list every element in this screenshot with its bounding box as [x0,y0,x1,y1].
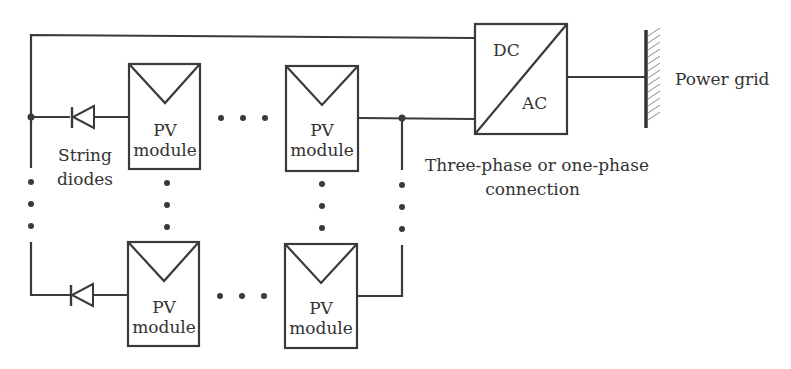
diode-label-line2: diodes [50,167,120,191]
string-diode-icon-top [72,106,94,128]
module-line2: module [129,140,201,160]
string-diode-icon-bottom [71,284,93,306]
power-grid-icon [646,28,660,128]
module-line2: module [285,318,357,338]
top-wire [31,35,475,117]
module-line1: PV [128,297,200,317]
inverter-ac-label: AC [522,93,547,113]
pv-module-label-bottom-2: PV module [285,298,357,338]
connection-label-line1: Three-phase or one-phase [425,153,640,177]
module-line2: module [128,317,200,337]
power-grid-label: Power grid [675,69,769,89]
module-line1: PV [129,120,201,140]
pv-module-label-bottom-1: PV module [128,297,200,337]
pv-module-label-top-1: PV module [129,120,201,160]
module-line1: PV [286,120,358,140]
diode-label-line1: String [50,143,120,167]
string-diodes-label: String diodes [50,143,120,191]
connection-label: Three-phase or one-phase connection [425,153,640,201]
module-line1: PV [285,298,357,318]
bottom-right-wire [358,245,402,296]
inverter-box [475,24,567,134]
junction-dot-right [399,115,406,122]
bottom-left-wire [31,242,70,295]
connection-label-line2: connection [425,177,640,201]
junction-dot-left [28,114,35,121]
top-string-wire-right [358,118,475,119]
inverter-dc-label: DC [493,40,520,60]
module-line2: module [286,140,358,160]
pv-module-label-top-2: PV module [286,120,358,160]
